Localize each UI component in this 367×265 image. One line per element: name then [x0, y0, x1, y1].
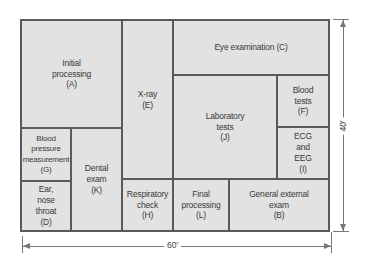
- room-eye-examination: Eye examination (C): [172, 19, 330, 76]
- arrow-down-icon: [340, 224, 346, 231]
- arrow-up-icon: [340, 20, 346, 27]
- floor-plan: Initial processing (A) X-ray (E) Eye exa…: [0, 0, 367, 265]
- room-dental-exam: Dental exam (K): [70, 127, 123, 232]
- room-label: Blood pressure measurement (G): [23, 134, 70, 175]
- room-respiratory-check: Respiratory check (H): [121, 178, 174, 232]
- room-label: X-ray (E): [138, 89, 157, 111]
- room-label: General external exam (B): [249, 189, 309, 222]
- room-label: Dental exam (K): [85, 163, 108, 196]
- room-general-external-exam: General external exam (B): [228, 178, 330, 232]
- room-laboratory-tests: Laboratory tests (J): [172, 74, 278, 180]
- room-blood-pressure: Blood pressure measurement (G): [20, 127, 72, 182]
- room-x-ray: X-ray (E): [121, 19, 174, 180]
- room-ear-nose-throat: Ear, nose throat (D): [20, 180, 72, 232]
- room-initial-processing: Initial processing (A): [20, 19, 123, 129]
- room-ecg-eeg: ECG and EEG (I): [276, 126, 330, 180]
- height-dimension-label: 40′: [338, 117, 348, 134]
- room-label: Laboratory tests (J): [206, 111, 245, 144]
- room-label: Ear, nose throat (D): [36, 184, 57, 228]
- dimension-tick-bottom: [333, 231, 349, 232]
- room-label: Respiratory check (H): [127, 189, 168, 222]
- width-dimension-label: 60′: [164, 240, 181, 250]
- room-blood-tests: Blood tests (F): [276, 74, 330, 128]
- arrow-right-icon: [324, 243, 331, 249]
- room-label: Blood tests (F): [293, 85, 314, 118]
- room-label: Final processing (L): [181, 189, 220, 222]
- room-label: Eye examination (C): [214, 42, 287, 53]
- room-label: ECG and EEG (I): [294, 131, 312, 175]
- room-final-processing: Final processing (L): [172, 178, 230, 232]
- arrow-left-icon: [23, 243, 30, 249]
- dimension-tick-right: [331, 232, 332, 253]
- room-label: Initial processing (A): [52, 58, 91, 91]
